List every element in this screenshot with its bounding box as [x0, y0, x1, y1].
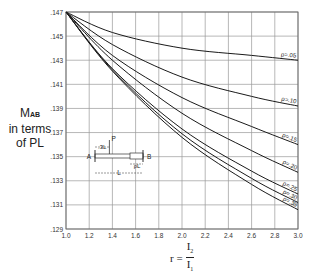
support-b-label: B [147, 153, 151, 160]
y-label-sub: AB [30, 111, 40, 118]
haunch-label: ρL [134, 163, 141, 169]
beam-haunch [130, 153, 143, 159]
x-tick-label: 2.4 [224, 232, 233, 239]
x-tick-label: 2.2 [201, 232, 210, 239]
y-tick-label: .129 [50, 226, 63, 233]
x-tick-label: 1.8 [154, 232, 163, 239]
y-axis-label: MAB in terms of PL [4, 106, 56, 150]
y-label-main: M [20, 106, 30, 120]
y-tick-label: .147 [50, 9, 63, 16]
beam-diagram: ABP.3LρLL [87, 135, 152, 176]
y-tick-label: .143 [50, 57, 63, 64]
x-tick-label: 1.2 [85, 232, 94, 239]
x-label-denominator-sub: 1 [190, 266, 193, 272]
y-tick-label: .141 [50, 81, 63, 88]
span-label: L [117, 169, 121, 176]
curve-label: ρ=.05 [281, 51, 297, 59]
curve-labels: ρ=.05ρ=.10ρ=.15ρ=.20ρ=.25ρ=.30ρ=.35 [281, 51, 299, 208]
y-tick-label: .135 [50, 153, 63, 160]
grid [66, 12, 298, 229]
x-tick-label: 2.8 [270, 232, 279, 239]
load-distance-label: .3L [98, 144, 107, 150]
y-tick-label: .131 [50, 201, 63, 208]
support-a-label: A [87, 153, 92, 160]
x-label-fraction: I2 I1 [186, 240, 195, 275]
x-tick-label: 3.0 [293, 232, 302, 239]
x-axis-label: r = I2 I1 [170, 240, 194, 275]
y-label-line3: of PL [4, 136, 56, 150]
y-tick-label: .133 [50, 177, 63, 184]
y-tick-label: .145 [50, 33, 63, 40]
tick-labels: 1.01.21.41.61.82.02.22.42.62.83.0.147.14… [50, 9, 303, 240]
x-tick-label: 2.0 [177, 232, 186, 239]
x-tick-label: 1.0 [61, 232, 70, 239]
x-tick-label: 2.6 [247, 232, 256, 239]
load-label: P [111, 135, 115, 142]
x-tick-label: 1.4 [108, 232, 117, 239]
x-label-numerator-sub: 2 [190, 248, 193, 254]
y-label-line2: in terms [4, 122, 56, 136]
x-tick-label: 1.6 [131, 232, 140, 239]
x-label-prefix: r = [170, 252, 183, 264]
